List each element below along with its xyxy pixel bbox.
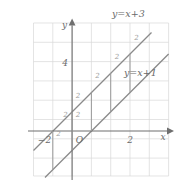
graph-figure: −2 2 4 O x y y=x+3 y=x+1 2 2 2 2 2 2 2 [0, 0, 178, 183]
x-axis-label: x [160, 132, 165, 142]
y-axis-label: y [61, 20, 68, 30]
gap-annotation-1: 2 [55, 130, 61, 138]
x-tick-label-2: 2 [126, 135, 133, 145]
equation-label-upper: y=x+3 [111, 8, 145, 19]
gap-annotation-4: 2 [75, 92, 81, 100]
origin-label: O [76, 135, 84, 145]
gap-annotation-5: 2 [94, 72, 100, 80]
x-tick-label-neg2: −2 [38, 135, 52, 145]
grid-vertical-lines [34, 23, 169, 176]
gap-annotation-7: 2 [133, 34, 139, 42]
gap-annotation-3: 2 [75, 111, 81, 119]
gap-annotation-2: 2 [62, 111, 68, 119]
gap-annotation-6: 2 [114, 53, 120, 61]
function-line-upper [34, 33, 152, 151]
y-tick-label-4: 4 [61, 58, 68, 68]
grid-horizontal-lines [34, 23, 169, 176]
coordinate-plane-svg: −2 2 4 O x y y=x+3 y=x+1 2 2 2 2 2 2 2 [0, 0, 178, 183]
equation-label-lower: y=x+1 [123, 67, 157, 78]
y-axis [69, 19, 76, 181]
